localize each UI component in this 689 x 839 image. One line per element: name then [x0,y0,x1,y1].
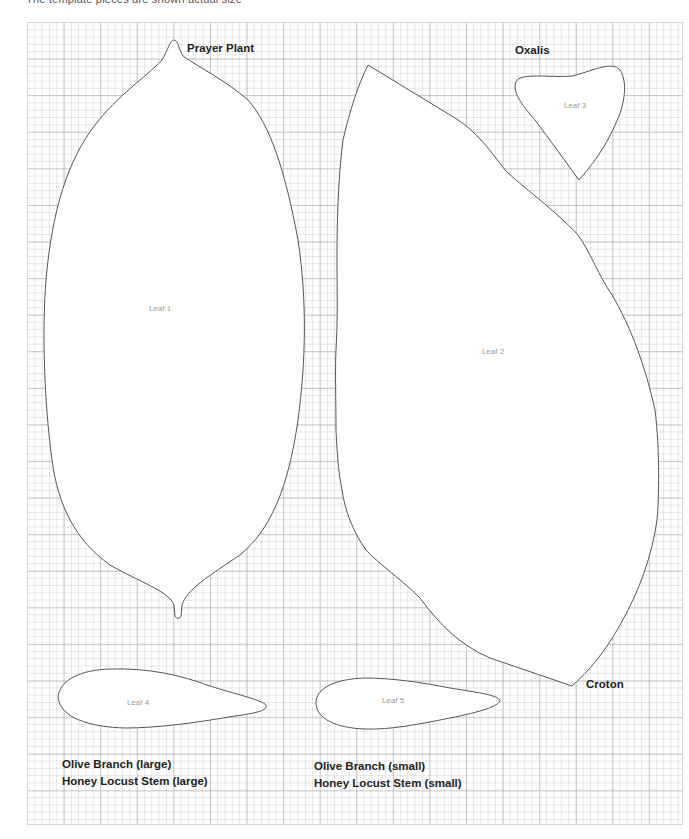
plant-label-olive-branch-small: Olive Branch (small) [314,758,462,775]
plant-label-honey-locust-large: Honey Locust Stem (large) [62,773,208,790]
leaf-4-shape [58,669,266,728]
leaf-3-shape [515,66,624,180]
leaf-1-label: Leaf 1 [149,304,171,313]
plant-label-olive-branch-large: Olive Branch (large) [62,756,208,773]
leaf-templates [0,0,689,839]
leaf-3-label: Leaf 3 [564,101,586,110]
plant-label-leaf-4: Olive Branch (large) Honey Locust Stem (… [62,756,208,790]
leaf-1-shape [44,40,304,618]
leaf-4-label: Leaf 4 [127,698,149,707]
leaf-5-label: Leaf 5 [382,696,404,705]
plant-label-prayer-plant: Prayer Plant [187,40,254,57]
leaf-2-label: Leaf 2 [482,347,504,356]
plant-label-croton: Croton [586,676,624,693]
leaf-2-shape [336,65,659,686]
leaf-5-shape [316,678,500,729]
plant-label-leaf-5: Olive Branch (small) Honey Locust Stem (… [314,758,462,792]
plant-label-honey-locust-small: Honey Locust Stem (small) [314,775,462,792]
plant-label-oxalis: Oxalis [515,42,550,59]
